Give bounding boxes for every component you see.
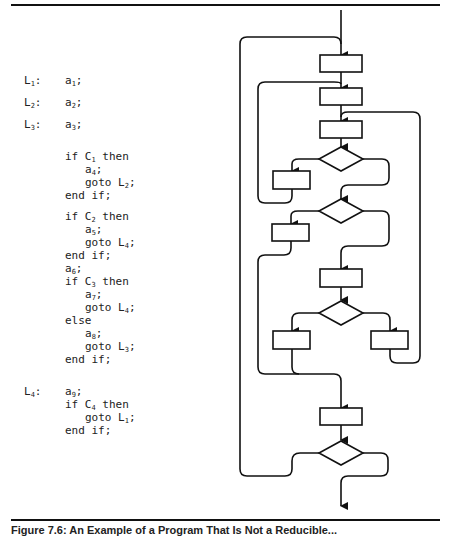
edge-c1-a4 — [292, 159, 319, 171]
figure-caption: Figure 7.6: An Example of a Program That… — [11, 524, 337, 536]
condition-diamond-C3 — [319, 301, 363, 325]
statement-box-a2 — [320, 88, 362, 105]
condition-diamond-C1 — [319, 147, 363, 171]
statement-box-a9 — [320, 408, 362, 425]
edge-c3-a8 — [363, 313, 390, 331]
edge-a5-merge — [258, 241, 341, 408]
condition-diamond-C2 — [319, 199, 363, 223]
loop-a8-to-a3 — [341, 112, 420, 363]
condition-diamond-C4 — [319, 441, 363, 465]
statement-box-a7 — [273, 331, 310, 349]
statement-box-a8 — [371, 331, 408, 349]
flowchart-edges — [240, 10, 420, 506]
flowchart-nodes — [272, 55, 408, 465]
statement-box-a5 — [272, 224, 309, 241]
statement-box-a6 — [320, 269, 362, 287]
edge-a7-merge — [292, 349, 299, 374]
statement-box-a4 — [273, 171, 310, 189]
edge-c2-a5 — [291, 211, 319, 224]
statement-box-a1 — [320, 55, 362, 72]
statement-box-a3 — [320, 121, 362, 138]
edge-c3-a7 — [292, 313, 319, 331]
